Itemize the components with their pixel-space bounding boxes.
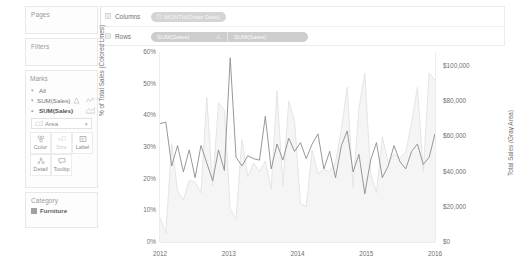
caret-down-icon[interactable]: ▾ (31, 97, 34, 103)
size-icon (58, 135, 66, 144)
axis-line-left (159, 52, 160, 242)
detail-icon (37, 157, 45, 166)
pill-sum-sales-1[interactable]: SUM(Sales) (151, 32, 227, 42)
category-legend-card[interactable]: Category Furniture (25, 192, 98, 228)
y-axis-left-tick: 0% (112, 238, 156, 245)
axis-line-bottom (160, 242, 435, 243)
label-button-label: Label (76, 145, 90, 151)
columns-shelf[interactable]: Columns MONTH(Order Date) (101, 7, 504, 26)
columns-shelf-label: Columns (115, 13, 147, 20)
tooltip-button[interactable]: Tooltip (51, 154, 72, 176)
marks-row-sum-sales-1-label: SUM(Sales) (37, 97, 70, 104)
rows-icon (105, 33, 111, 40)
y-axis-right-tick: $20,000 (443, 203, 466, 210)
x-axis-tick: 2013 (215, 250, 243, 257)
marks-row-sum-sales-2[interactable]: ▴ SUM(Sales) (30, 105, 93, 115)
y-axis-left-tick: 60% (112, 48, 156, 55)
size-button-label: Size (56, 145, 67, 151)
x-axis-tick: 2014 (284, 250, 312, 257)
marks-row-all-label: All (39, 87, 46, 94)
y-axis-left-tick: 50% (112, 80, 156, 87)
marks-card[interactable]: Marks ▾ All ▾ SUM(Sales) ▴ SUM(Sales) (25, 70, 98, 188)
pages-card[interactable]: Pages (25, 6, 98, 34)
y-axis-left-tick: 30% (112, 143, 156, 150)
warning-triangle-icon (216, 34, 221, 40)
y-axis-left-tick: 40% (112, 111, 156, 118)
label-icon (79, 135, 87, 144)
category-legend-title: Category (31, 197, 92, 204)
color-button-label: Color (34, 145, 47, 151)
line-icon[interactable] (86, 97, 93, 104)
plot-canvas[interactable] (160, 52, 435, 242)
marks-card-title: Marks (30, 75, 93, 82)
x-axis-tick: 2015 (352, 250, 380, 257)
detail-button[interactable]: Detail (30, 154, 51, 176)
mark-type-select[interactable]: Area ▾ (31, 118, 92, 129)
pill-month-order-date-label: MONTH(Order Date) (164, 14, 220, 20)
chart-area: % of Total Sales (Colored Lines) Total S… (100, 48, 505, 270)
filters-card[interactable]: Filters (25, 38, 98, 66)
y-axis-right-tick: $100,000 (443, 62, 470, 69)
x-axis-tick: 2016 (421, 250, 449, 257)
y-axis-right-tick: $60,000 (443, 132, 466, 139)
columns-icon (105, 13, 111, 20)
marks-row-all[interactable]: ▾ All (30, 85, 93, 95)
legend-item-furniture[interactable]: Furniture (31, 207, 92, 214)
chevron-down-icon[interactable]: ▾ (85, 121, 88, 127)
pill-sum-sales-2[interactable]: SUM(Sales) (228, 32, 308, 42)
pages-card-title: Pages (31, 11, 92, 18)
y-axis-right-title: Total Sales (Gray Area) (507, 110, 514, 176)
area-icon (35, 120, 42, 127)
detail-button-label: Detail (33, 167, 47, 173)
chart-svg (160, 52, 435, 242)
label-button[interactable]: Label (72, 132, 93, 154)
color-button[interactable]: Color (30, 132, 51, 154)
marks-row-sum-sales-2-label: SUM(Sales) (39, 107, 73, 114)
y-axis-left-tick: 20% (112, 175, 156, 182)
caret-up-icon[interactable]: ▴ (31, 107, 36, 113)
area-icon[interactable] (86, 107, 93, 114)
size-button[interactable]: Size (51, 132, 72, 154)
marks-buttons: Color Size (30, 132, 93, 176)
y-axis-right-tick: $40,000 (443, 168, 466, 175)
calendar-icon (157, 14, 162, 20)
marks-row-sum-sales-1[interactable]: ▾ SUM(Sales) (30, 95, 93, 105)
mark-type-select-value: Area (45, 120, 58, 127)
rows-shelf[interactable]: Rows SUM(Sales) SUM(Sales) (101, 26, 504, 46)
color-icon (37, 135, 45, 144)
y-axis-left-title: % of Total Sales (Colored Lines) (98, 25, 105, 116)
caret-down-icon[interactable]: ▾ (31, 87, 36, 93)
tooltip-icon (58, 157, 66, 166)
legend-swatch-icon (31, 208, 37, 214)
pill-month-order-date[interactable]: MONTH(Order Date) (151, 12, 226, 22)
shelf-area: Columns MONTH(Order Date) Rows (100, 6, 505, 46)
pill-sum-sales-1-label: SUM(Sales) (157, 34, 189, 40)
tooltip-button-label: Tooltip (53, 167, 69, 173)
legend-item-furniture-label: Furniture (40, 207, 67, 214)
filters-card-title: Filters (31, 43, 92, 50)
rows-shelf-pills: SUM(Sales) SUM(Sales) (151, 32, 308, 42)
x-axis-tick: 2012 (146, 250, 174, 257)
y-axis-right-tick: $0 (443, 238, 450, 245)
y-axis-left-tick: 10% (112, 206, 156, 213)
triangle-icon (73, 97, 80, 104)
y-axis-right-tick: $80,000 (443, 97, 466, 104)
axis-line-right (435, 52, 436, 242)
left-sidebar: Pages Filters Marks ▾ All ▾ SUM(Sales) (25, 6, 98, 268)
pill-sum-sales-2-label: SUM(Sales) (234, 34, 266, 40)
rows-shelf-label: Rows (115, 33, 147, 40)
